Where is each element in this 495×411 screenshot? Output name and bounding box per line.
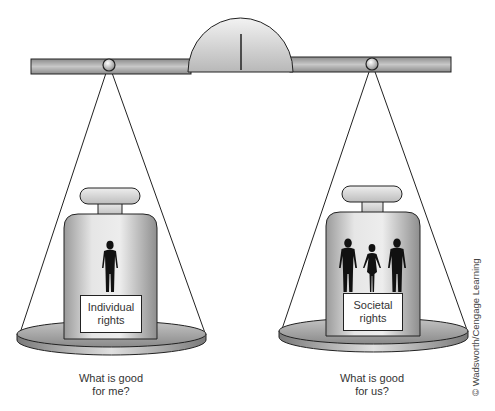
right-caption-line1: What is good	[312, 372, 432, 385]
individual-rights-label-line2: rights	[81, 314, 141, 327]
people-silhouettes-icon	[339, 239, 406, 293]
societal-rights-label-line1: Societal	[344, 299, 402, 312]
left-caption-line1: What is good	[51, 372, 171, 385]
right-caption: What is good for us?	[312, 372, 432, 398]
scale-beam	[31, 18, 451, 74]
balance-scale-diagram	[0, 0, 495, 411]
left-caption: What is good for me?	[51, 372, 171, 398]
right-caption-line2: for us?	[312, 385, 432, 398]
copyright-notice: © Wadsworth/Cengage Learning	[470, 258, 481, 396]
individual-rights-label-line1: Individual	[81, 301, 141, 314]
individual-rights-label: Individual rights	[80, 295, 142, 333]
societal-rights-label: Societal rights	[343, 293, 403, 331]
left-caption-line2: for me?	[51, 385, 171, 398]
left-pivot-ball	[103, 59, 115, 71]
societal-rights-label-line2: rights	[344, 312, 402, 325]
right-pivot-ball	[366, 58, 378, 70]
